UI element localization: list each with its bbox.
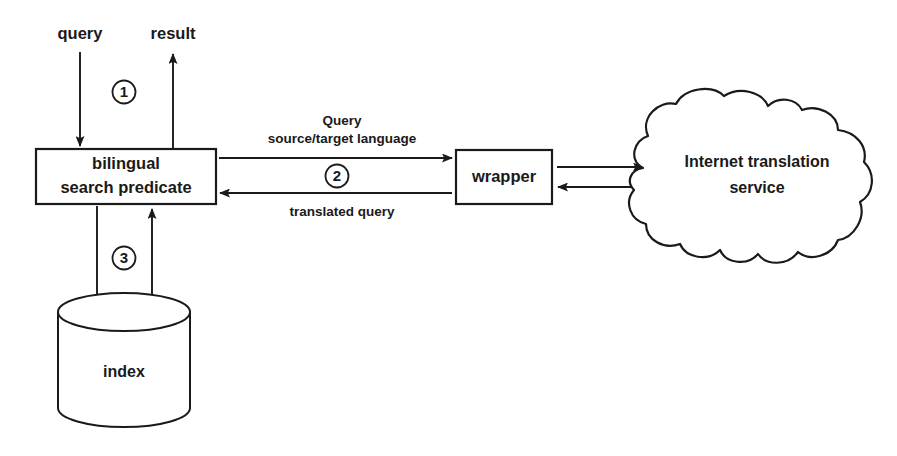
wrapper-label: wrapper bbox=[471, 167, 537, 185]
internet-translation-service-cloud bbox=[629, 89, 872, 263]
step-2-label: 2 bbox=[333, 167, 341, 184]
bilingual-search-predicate-label-line1: bilingual bbox=[92, 154, 160, 172]
internet-translation-service-label-line2: service bbox=[729, 179, 784, 196]
query-input-label: query bbox=[58, 24, 104, 42]
query-edge-label-line2: source/target language bbox=[268, 131, 417, 146]
step-1-label: 1 bbox=[120, 83, 128, 100]
translated-query-edge-label: translated query bbox=[289, 204, 395, 219]
query-edge-label-line1: Query bbox=[322, 113, 362, 128]
step-3-label: 3 bbox=[120, 249, 128, 266]
result-output-label: result bbox=[151, 24, 196, 42]
bilingual-search-predicate-label-line2: search predicate bbox=[60, 178, 191, 196]
index-cylinder-top bbox=[58, 293, 190, 331]
index-label: index bbox=[103, 363, 145, 380]
diagram-canvas: query result 1 2 3 bilingual search pred… bbox=[0, 0, 897, 456]
diagram-svg: query result 1 2 3 bilingual search pred… bbox=[0, 0, 897, 456]
internet-translation-service-label-line1: Internet translation bbox=[685, 153, 830, 170]
